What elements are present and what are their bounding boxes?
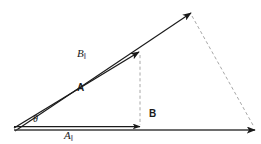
vector-b-parallel-line (15, 13, 191, 131)
guide-closing-side (192, 16, 254, 126)
vector-diagram-figure: B‖ A A‖ B θ (0, 0, 261, 144)
label-a-vector: A (77, 83, 84, 93)
label-theta-angle: θ (33, 114, 38, 124)
label-a-parallel: A‖ (64, 130, 73, 143)
label-a-parallel-base: A (64, 129, 71, 141)
label-a-parallel-subscript: ‖ (71, 134, 73, 143)
vector-diagram-canvas (0, 0, 261, 144)
label-b-parallel: B‖ (77, 48, 86, 61)
label-b-vector: B (149, 109, 156, 119)
label-b-parallel-subscript: ‖ (84, 52, 86, 61)
label-b-parallel-base: B (77, 47, 84, 59)
